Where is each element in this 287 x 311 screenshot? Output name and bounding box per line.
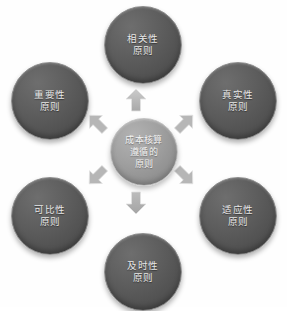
node-bottom-right[interactable]: 适应性 原则	[199, 177, 277, 255]
arrow-down-right-icon	[172, 163, 198, 189]
node-top-right[interactable]: 真实性 原则	[199, 62, 277, 140]
node-center[interactable]: 成本核算 遵循的 原则	[110, 118, 178, 186]
node-top[interactable]: 相关性 原则	[104, 6, 182, 84]
arrow-up-icon	[125, 88, 147, 112]
node-bottom-label: 及时性 原则	[127, 260, 158, 285]
node-bottom[interactable]: 及时性 原则	[104, 233, 182, 311]
node-top-left-label: 重要性 原则	[34, 89, 65, 114]
node-top-left[interactable]: 重要性 原则	[11, 62, 89, 140]
arrow-up-left-icon	[84, 110, 110, 136]
node-center-label: 成本核算 遵循的 原则	[125, 134, 163, 170]
arrow-down-left-icon	[84, 163, 110, 189]
node-bottom-right-label: 适应性 原则	[222, 204, 253, 229]
node-top-right-label: 真实性 原则	[222, 89, 253, 114]
arrow-down-icon	[125, 191, 147, 215]
node-bottom-left[interactable]: 可比性 原则	[11, 177, 89, 255]
node-top-label: 相关性 原则	[127, 33, 158, 58]
arrow-up-right-icon	[172, 110, 198, 136]
node-bottom-left-label: 可比性 原则	[34, 204, 65, 229]
